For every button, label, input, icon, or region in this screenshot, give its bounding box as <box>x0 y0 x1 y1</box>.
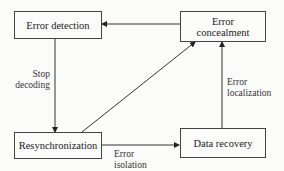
edge-label-error-isolation-line2: isolation <box>114 160 147 171</box>
edge-label-error-localization-line2: localization <box>227 88 271 99</box>
node-error-concealment: Error concealment <box>180 11 266 42</box>
flow-diagram: Error detection Error concealment Resync… <box>0 0 284 171</box>
edge-label-stop-decoding-line1: Stop <box>8 69 50 80</box>
edge-label-error-localization: Error localization <box>227 77 271 99</box>
arrow-resync-to-concealment <box>82 42 195 132</box>
edge-label-stop-decoding: Stop decoding <box>8 69 50 91</box>
edge-label-stop-decoding-line2: decoding <box>8 80 50 91</box>
node-error-concealment-line1: Error <box>212 16 234 27</box>
node-resynchronization: Resynchronization <box>14 132 102 159</box>
edge-label-error-isolation: Error isolation <box>114 149 147 171</box>
node-resynchronization-label: Resynchronization <box>19 140 98 151</box>
node-data-recovery-label: Data recovery <box>193 138 252 149</box>
edge-label-error-isolation-line1: Error <box>114 149 147 160</box>
node-data-recovery: Data recovery <box>180 128 266 158</box>
node-error-concealment-line2: concealment <box>196 27 249 38</box>
edge-label-error-localization-line1: Error <box>227 77 271 88</box>
node-error-detection: Error detection <box>14 11 102 39</box>
node-error-detection-label: Error detection <box>26 20 89 31</box>
